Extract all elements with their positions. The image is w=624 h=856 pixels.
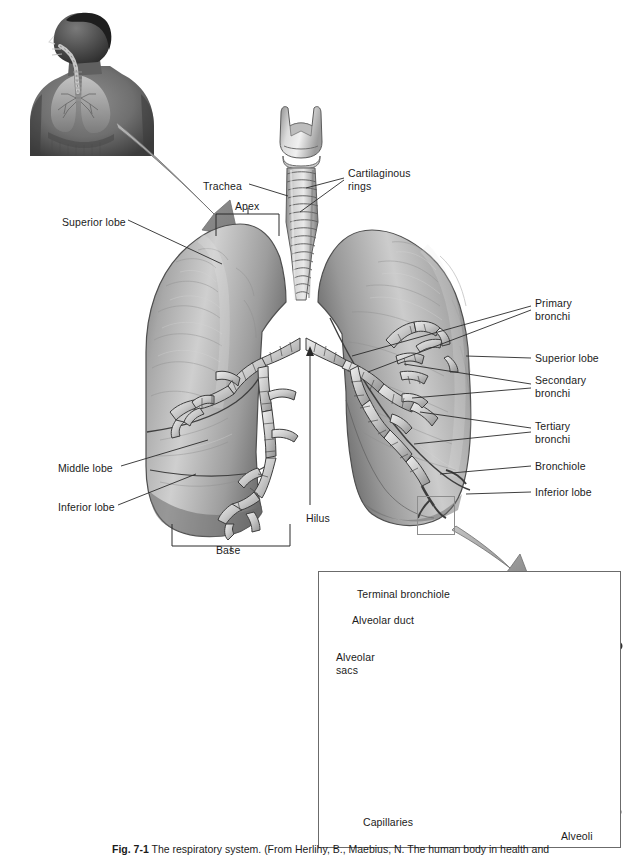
bronchial-tree-right [170,338,300,540]
larynx [280,107,322,169]
selection-box [417,496,455,535]
figure-caption-source: (From Herlihy, B., Maebius, N. The human… [264,843,552,855]
left-lung [318,230,471,526]
figure-number: Fig. 7-1 [112,843,149,855]
label-alveolar-duct: Alveolar duct [352,614,414,627]
figure-caption: Fig. 7-1 The respiratory system. (From H… [112,843,552,855]
cartilaginous-rings-group [287,172,318,294]
label-hilus: Hilus [306,512,330,525]
label-terminal-bronchiole: Terminal bronchiole [357,588,450,601]
label-cartilaginous-rings: Cartilaginous rings [348,167,411,192]
figure-root: Superior lobe Middle lobe Inferior lobe … [0,0,624,856]
label-primary-bronchi: Primary bronchi [535,297,572,322]
figure-caption-title: The respiratory system. [152,843,262,855]
hilus-pointer [306,346,314,505]
alveoli-inset-frame [318,571,621,848]
label-bronchiole: Bronchiole [535,460,586,473]
trachea [286,168,318,300]
right-lung [146,224,286,537]
label-alveolar-sacs: Alveolar sacs [336,651,375,676]
label-capillaries: Capillaries [363,816,413,829]
torso-thumbnail [18,6,168,158]
label-inferior-lobe-left: Inferior lobe [58,501,115,514]
label-trachea: Trachea [203,180,242,193]
label-base: Base [216,544,240,557]
label-middle-lobe: Middle lobe [58,462,113,475]
label-tertiary-bronchi: Tertiary bronchi [535,420,570,445]
label-superior-lobe-left: Superior lobe [62,216,126,229]
label-secondary-bronchi: Secondary bronchi [535,374,586,399]
bronchial-tree-left [306,321,466,518]
label-apex: Apex [235,200,259,213]
label-inferior-lobe-right: Inferior lobe [535,486,592,499]
leader-lines [118,178,531,505]
label-alveoli: Alveoli [561,830,593,843]
label-superior-lobe-right: Superior lobe [535,352,599,365]
